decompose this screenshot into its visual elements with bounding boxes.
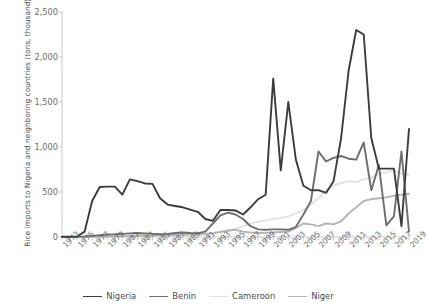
- legend-item-niger[interactable]: Niger: [288, 291, 334, 301]
- x-axis-tick-label: 2007: [317, 229, 337, 249]
- legend-swatch-benin: [149, 296, 168, 297]
- x-axis-tick-label: 1983: [136, 229, 156, 249]
- legend-label-cameroon: Cameroon: [232, 291, 275, 301]
- legend-item-benin[interactable]: Benin: [149, 291, 196, 301]
- legend-label-benin: Benin: [172, 291, 196, 301]
- x-axis-tick-label: 2019: [408, 229, 428, 249]
- legend-label-nigeria: Nigeria: [106, 291, 136, 301]
- x-axis-tick-label: 1985: [152, 229, 172, 249]
- legend-item-cameroon[interactable]: Cameroon: [209, 291, 275, 301]
- legend-item-nigeria[interactable]: Nigeria: [83, 291, 136, 301]
- x-axis-tick-label: 2009: [333, 229, 353, 249]
- legend-label-niger: Niger: [311, 291, 334, 301]
- chart-legend: NigeriaBeninCameroonNiger: [0, 286, 417, 306]
- legend-swatch-niger: [288, 296, 307, 297]
- legend-swatch-nigeria: [83, 296, 102, 297]
- legend-swatch-cameroon: [209, 296, 228, 297]
